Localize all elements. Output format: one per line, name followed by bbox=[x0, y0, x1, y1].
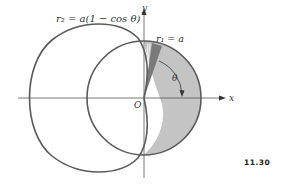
y-axis-label: y bbox=[141, 3, 148, 13]
x-axis-arrow-icon bbox=[219, 96, 226, 101]
angle-label: θ bbox=[172, 73, 178, 83]
circle-label: r₁ = a bbox=[156, 33, 184, 44]
origin-label: O bbox=[134, 100, 142, 110]
figure-number: 11.30 bbox=[244, 158, 270, 167]
polar-diagram: r₂ = a(1 − cos θ) r₁ = a θ x y O 11.30 bbox=[0, 0, 283, 184]
cardioid-label: r₂ = a(1 − cos θ) bbox=[56, 13, 140, 24]
x-axis-label: x bbox=[229, 93, 234, 103]
